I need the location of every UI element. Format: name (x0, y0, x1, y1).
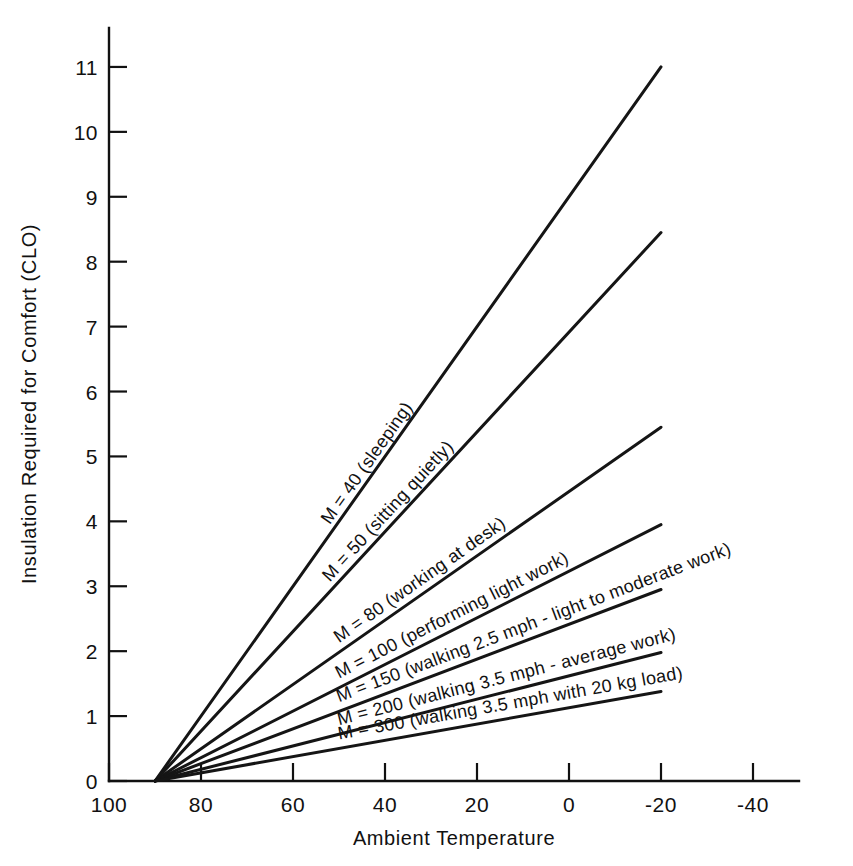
x-tick-label--40: -40 (737, 793, 769, 816)
y-tick-label-8: 8 (86, 251, 98, 274)
y-axis-ticks (109, 67, 127, 781)
series-labels: M = 40 (sleeping)M = 50 (sitting quietly… (317, 398, 734, 743)
y-axis-title: Insulation Required for Comfort (CLO) (18, 224, 40, 584)
x-axis-tick-labels: 100806040200-20-40 (91, 793, 769, 816)
y-tick-label-5: 5 (86, 445, 98, 468)
y-tick-label-3: 3 (86, 575, 98, 598)
y-tick-label-6: 6 (86, 381, 98, 404)
x-tick-label-100: 100 (91, 793, 128, 816)
y-axis-tick-labels: 01234567891011 (74, 56, 98, 793)
y-tick-label-11: 11 (75, 56, 98, 79)
y-tick-label-0: 0 (86, 770, 98, 793)
x-tick-label-80: 80 (189, 793, 213, 816)
y-tick-label-9: 9 (86, 186, 98, 209)
chart-figure: 01234567891011 100806040200-20-40 M = 40… (0, 0, 853, 866)
x-tick-label--20: -20 (645, 793, 677, 816)
insulation-vs-temperature-chart: 01234567891011 100806040200-20-40 M = 40… (0, 0, 853, 866)
x-tick-label-20: 20 (465, 793, 489, 816)
y-tick-label-10: 10 (74, 121, 98, 144)
x-axis-title: Ambient Temperature (353, 827, 555, 849)
y-tick-label-2: 2 (86, 640, 98, 663)
y-tick-label-7: 7 (86, 316, 98, 339)
y-tick-label-1: 1 (86, 705, 98, 728)
y-tick-label-4: 4 (86, 510, 98, 533)
x-tick-label-60: 60 (281, 793, 305, 816)
x-tick-label-0: 0 (563, 793, 575, 816)
x-tick-label-40: 40 (373, 793, 397, 816)
